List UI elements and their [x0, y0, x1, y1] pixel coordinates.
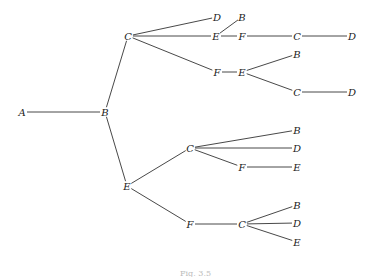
node-d: D — [212, 12, 221, 23]
node-b: B — [292, 200, 300, 211]
node-c: C — [293, 87, 301, 98]
node-b: B — [292, 125, 300, 136]
edge-c-e — [247, 226, 292, 241]
node-c: C — [238, 219, 246, 230]
node-f: F — [186, 219, 195, 230]
node-d: D — [347, 31, 356, 42]
edge-e-f — [131, 189, 185, 222]
edge-c-d — [133, 18, 212, 35]
edge-e-b — [247, 56, 292, 71]
edge-b-e — [106, 117, 125, 181]
node-d: D — [347, 87, 356, 98]
node-e: E — [292, 237, 301, 248]
node-d: D — [292, 143, 301, 154]
node-e: E — [292, 162, 301, 173]
edge-c-b — [195, 131, 292, 147]
edge-c-d — [247, 223, 292, 224]
node-e: E — [211, 31, 220, 42]
node-e: E — [122, 181, 131, 192]
node-e: E — [237, 67, 246, 78]
node-f: F — [238, 31, 247, 42]
edge-c-f — [195, 150, 238, 166]
node-a: A — [17, 107, 25, 118]
tree-diagram: ABCDEBFCDFEBCDECBDFEFCBDE Fig. 3.5 — [0, 0, 375, 277]
edge-c-b — [247, 207, 293, 223]
edge-e-b — [220, 20, 238, 33]
figure-caption: Fig. 3.5 — [180, 269, 211, 277]
edge-e-c — [131, 151, 185, 184]
node-c: C — [293, 31, 301, 42]
node-b: B — [237, 12, 245, 23]
node-f: F — [213, 67, 222, 78]
tree-nodes: ABCDEBFCDFEBCDECBDFEFCBDE — [17, 12, 356, 248]
node-c: C — [124, 31, 132, 42]
node-b: B — [292, 49, 300, 60]
node-f: F — [238, 162, 247, 173]
node-d: D — [292, 218, 301, 229]
edge-e-c — [247, 74, 293, 91]
node-c: C — [186, 143, 194, 154]
node-b: B — [100, 107, 108, 118]
edge-c-f — [133, 38, 213, 70]
edge-b-c — [106, 41, 126, 107]
